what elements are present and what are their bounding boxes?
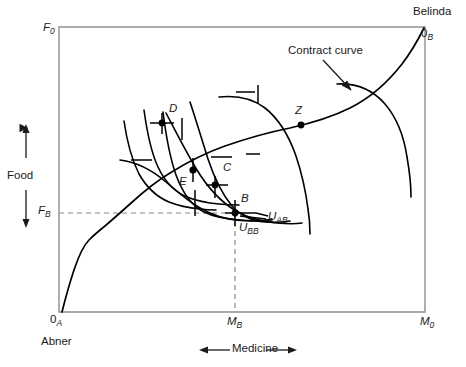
point-marker-e (189, 166, 196, 173)
point-label-c: C (223, 162, 231, 174)
contract-curve-callout-arrow (323, 60, 351, 90)
curve-tick-marks (131, 85, 268, 226)
f-b-axis-label: FB (38, 205, 51, 219)
food-axis-label: Food (7, 170, 33, 182)
dashed-guides (59, 213, 235, 312)
diagram-canvas (0, 0, 466, 367)
agent-abner-label: Abner (41, 336, 72, 348)
u-bb-curve-label: UBB (239, 222, 259, 236)
agent-belinda-label: Belinda (413, 6, 451, 18)
m-b-axis-label: MB (227, 316, 242, 330)
f-zero-axis-label: F0 (43, 22, 55, 36)
point-marker-z (298, 122, 305, 129)
point-label-z: Z (295, 105, 302, 117)
u-ab-curve-label: UAB (268, 211, 288, 225)
origin-abner-label: 0A (50, 314, 62, 328)
point-marker-d (159, 120, 166, 127)
origin-belinda-label: 0B (421, 28, 433, 42)
point-label-e: E (179, 176, 187, 188)
allocation-point-markers (159, 120, 305, 217)
m-zero-axis-label: M0 (420, 316, 434, 330)
contract-curve-label: Contract curve (288, 45, 363, 57)
contract-curve-path (62, 28, 424, 312)
box-frame (59, 27, 425, 312)
point-marker-c (212, 182, 219, 189)
medicine-axis-label: Medicine (232, 343, 278, 355)
edgeworth-box-figure: F0 FB 0A Abner 0B Belinda MB M0 Food Med… (0, 0, 466, 367)
belinda-indifference-curves (120, 84, 411, 234)
point-label-d: D (169, 103, 177, 115)
point-marker-b (232, 210, 239, 217)
point-label-b: B (241, 193, 249, 205)
